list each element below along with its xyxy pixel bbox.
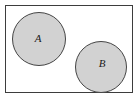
set-b-label: B (99, 57, 106, 69)
set-a-label: A (34, 32, 42, 44)
venn-diagram: A B (0, 0, 139, 98)
venn-diagram-canvas: A B (0, 0, 139, 98)
